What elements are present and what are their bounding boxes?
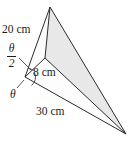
edge-label-20cm: 20 cm (2, 24, 30, 36)
angle-label-theta-numerator: θ (8, 43, 16, 55)
angle-label-theta-over-two: θ 2 (7, 43, 16, 69)
edge-label-8cm: 8 cm (33, 67, 56, 79)
angle-label-two-denominator: 2 (8, 58, 16, 70)
edge-label-30cm: 30 cm (36, 106, 64, 118)
leader-line-full-angle (17, 80, 24, 88)
figure-canvas (0, 0, 133, 145)
angle-label-theta: θ (10, 89, 16, 101)
geometry-figure: 20 cm 8 cm 30 cm θ 2 θ (0, 0, 133, 145)
